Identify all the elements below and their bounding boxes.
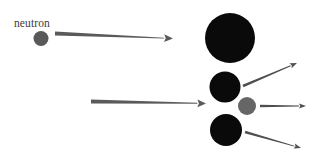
- label-layer: neutron: [14, 17, 50, 29]
- fission-fragment-circle: [210, 114, 242, 146]
- neutron-circle: [238, 97, 256, 115]
- heavy-nucleus-circle: [205, 13, 255, 63]
- fission-diagram-canvas: neutron: [0, 0, 327, 162]
- neutron-circle: [34, 31, 49, 46]
- fission-fragment-circle: [210, 72, 241, 103]
- fission-diagram: neutron: [0, 0, 327, 162]
- neutron-label: neutron: [14, 17, 50, 29]
